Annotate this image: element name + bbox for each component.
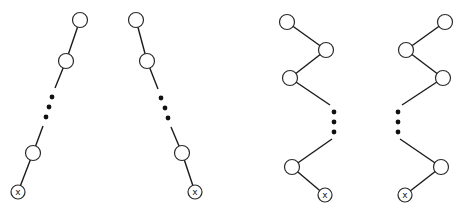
ellipsis-dot <box>159 96 164 101</box>
leaf-label: x <box>402 190 408 200</box>
ellipsis-dot <box>163 106 168 111</box>
tree-node <box>436 71 451 86</box>
tree-node <box>140 54 155 69</box>
ellipsis-dot <box>47 105 52 110</box>
tree-zigzag-right-first: x <box>280 15 337 203</box>
tree-node <box>438 15 453 30</box>
tree-node <box>285 160 300 175</box>
tree-node <box>319 43 334 58</box>
leaf-label: x <box>15 187 21 197</box>
ellipsis-dot <box>396 110 401 115</box>
ellipsis-dot <box>166 116 171 121</box>
tree-node <box>129 13 144 28</box>
tree-node <box>175 146 190 161</box>
tree-node <box>73 13 88 28</box>
tree-node <box>399 43 414 58</box>
ellipsis-dot <box>332 110 337 115</box>
tree-right-leaning-chain: x <box>129 13 203 200</box>
ellipsis-dot <box>396 130 401 135</box>
ellipsis-dot <box>44 115 49 120</box>
ellipsis-dot <box>332 130 337 135</box>
leaf-label: x <box>322 190 328 200</box>
leaf-label: x <box>192 187 198 197</box>
tree-node <box>280 15 295 30</box>
tree-left-leaning-chain: x <box>11 13 88 200</box>
tree-diagram-canvas: x x x x <box>0 0 462 214</box>
tree-node <box>59 54 74 69</box>
tree-node <box>434 160 449 175</box>
ellipsis-dot <box>396 120 401 125</box>
ellipsis-dot <box>332 120 337 125</box>
tree-zigzag-left-first: x <box>396 15 453 203</box>
tree-node <box>283 71 298 86</box>
tree-node <box>26 146 41 161</box>
ellipsis-dot <box>50 95 55 100</box>
